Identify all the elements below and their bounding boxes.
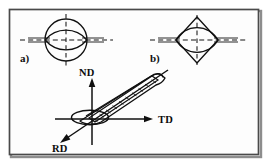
panel-b-label: b) [150,52,160,65]
figure-container: a) b) [0,0,269,166]
technical-figure: a) b) [0,0,269,166]
panel-a-label: a) [20,52,30,65]
axis-nd-label: ND [79,67,95,78]
axis-rd-label: RD [52,143,68,154]
axis-td-label: TD [158,114,173,125]
